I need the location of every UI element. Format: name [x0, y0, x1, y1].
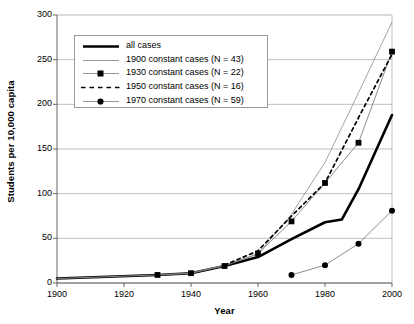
y-tick-label-300: 300 — [20, 9, 52, 19]
legend-item-1970-constant: 1970 constant cases (N = 59) — [79, 93, 263, 107]
x-tick-label-1900: 1900 — [35, 289, 79, 299]
chart-legend: all cases 1900 constant cases (N = 43) 1… — [74, 35, 268, 108]
legend-item-1950-constant: 1950 constant cases (N = 16) — [79, 80, 263, 94]
y-tick-label-150: 150 — [20, 143, 52, 153]
legend-label: 1970 constant cases (N = 59) — [126, 94, 244, 107]
x-tick-label-2000: 2000 — [370, 289, 414, 299]
legend-label: 1930 constant cases (N = 22) — [126, 66, 244, 79]
y-axis-title: Students per 10,000 capita — [5, 80, 16, 202]
legend-label: all cases — [126, 39, 161, 52]
series-marker-square — [389, 49, 395, 55]
x-tick-label-1940: 1940 — [169, 289, 213, 299]
series-marker-circle — [356, 241, 362, 247]
series-marker-square — [155, 272, 161, 278]
y-tick-label-200: 200 — [20, 98, 52, 108]
legend-item-all-cases: all cases — [79, 39, 263, 53]
y-tick-label-50: 50 — [20, 232, 52, 242]
series-marker-circle — [289, 272, 295, 278]
legend-label: 1950 constant cases (N = 16) — [126, 80, 244, 93]
x-tick-label-1980: 1980 — [303, 289, 347, 299]
chart-figure: Students per 10,000 capita Year 05010015… — [0, 0, 414, 324]
legend-swatch-circle-marker — [79, 94, 123, 107]
series-marker-square — [289, 218, 295, 224]
legend-label: 1900 constant cases (N = 43) — [126, 53, 244, 66]
legend-swatch-thick-solid — [79, 39, 123, 52]
x-tick-label-1920: 1920 — [102, 289, 146, 299]
legend-item-1900-constant: 1900 constant cases (N = 43) — [79, 53, 263, 67]
series-marker-circle — [389, 208, 395, 214]
y-tick-label-0: 0 — [20, 277, 52, 287]
legend-item-1930-constant: 1930 constant cases (N = 22) — [79, 66, 263, 80]
legend-swatch-square-marker — [79, 66, 123, 79]
series-marker-square — [356, 140, 362, 146]
series-marker-circle — [322, 262, 328, 268]
y-tick-label-100: 100 — [20, 188, 52, 198]
series-marker-square — [188, 270, 194, 276]
x-axis-title: Year — [214, 305, 234, 316]
x-axis-title-container: Year — [57, 300, 392, 318]
x-tick-label-1960: 1960 — [236, 289, 280, 299]
y-tick-label-250: 250 — [20, 54, 52, 64]
y-axis-title-container: Students per 10,000 capita — [0, 0, 20, 283]
legend-swatch-dashed — [79, 80, 123, 93]
legend-swatch-thin-solid — [79, 53, 123, 66]
